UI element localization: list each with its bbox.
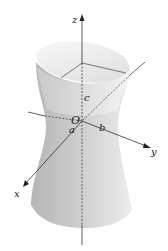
hyperboloid-diagram: z c O a b y x	[0, 0, 168, 251]
y-axis-label: y	[150, 146, 157, 157]
semi-axis-a-label: a	[69, 124, 75, 135]
z-axis-arrow-icon	[80, 14, 85, 21]
y-axis-back	[28, 112, 45, 116]
semi-axis-b-label: b	[99, 122, 105, 133]
semi-axis-c-label: c	[84, 92, 90, 103]
x-axis-label: x	[14, 188, 20, 199]
z-axis-label: z	[71, 14, 78, 25]
y-axis-arrow-icon	[143, 143, 151, 148]
x-axis-back	[130, 62, 145, 75]
